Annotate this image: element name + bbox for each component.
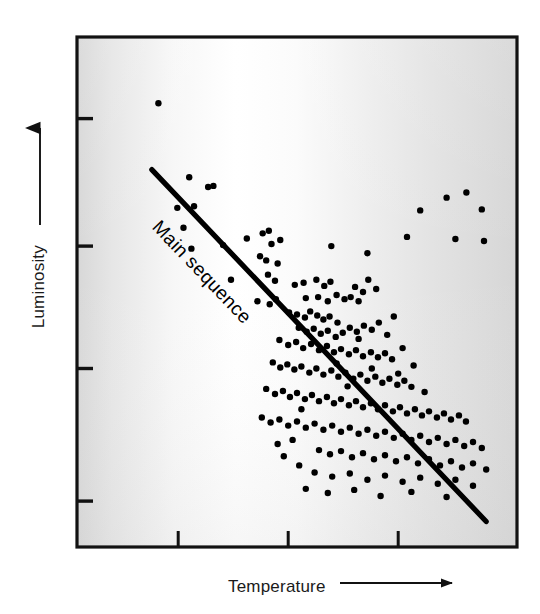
data-point <box>483 466 489 472</box>
data-point <box>340 330 346 336</box>
data-point <box>426 439 432 445</box>
data-point <box>456 412 462 418</box>
data-point <box>360 450 366 456</box>
data-point <box>395 370 401 376</box>
data-point <box>470 460 476 466</box>
data-point <box>393 458 399 464</box>
data-point <box>274 441 280 447</box>
data-point <box>341 296 347 302</box>
data-point <box>353 347 359 353</box>
y-axis-label: Luminosity <box>29 245 48 329</box>
data-point <box>338 346 344 352</box>
data-point <box>384 332 390 338</box>
data-point <box>320 371 326 377</box>
data-point <box>303 295 309 301</box>
hr-diagram-chart: Main sequence Luminosity Temperature <box>0 0 540 614</box>
data-point <box>410 362 416 368</box>
data-point <box>371 456 377 462</box>
data-point <box>369 327 375 333</box>
data-point <box>346 351 352 357</box>
data-point <box>186 174 192 180</box>
data-point <box>434 414 440 420</box>
data-point <box>404 454 410 460</box>
data-point <box>327 279 333 285</box>
data-point <box>155 100 161 106</box>
data-point <box>382 472 388 478</box>
data-point <box>404 410 410 416</box>
data-point <box>280 388 286 394</box>
data-point <box>244 235 250 241</box>
data-point <box>463 418 469 424</box>
data-point <box>347 325 353 331</box>
data-point <box>324 394 330 400</box>
data-point <box>401 378 407 384</box>
data-point <box>311 420 317 426</box>
data-point <box>331 400 337 406</box>
data-point <box>373 433 379 439</box>
data-point <box>435 435 441 441</box>
data-point <box>360 404 366 410</box>
data-point <box>328 367 334 373</box>
data-point <box>309 392 315 398</box>
data-point <box>298 363 304 369</box>
data-point <box>377 493 383 499</box>
data-point <box>287 394 293 400</box>
data-point <box>285 422 291 428</box>
data-point <box>347 424 353 430</box>
data-point <box>210 183 216 189</box>
data-point <box>298 406 304 412</box>
data-point <box>320 316 326 322</box>
data-point <box>335 373 341 379</box>
data-point <box>354 329 360 335</box>
data-point <box>349 454 355 460</box>
data-point <box>300 345 306 351</box>
data-point <box>338 396 344 402</box>
data-point <box>448 458 454 464</box>
data-point <box>364 476 370 482</box>
data-point <box>263 257 269 263</box>
data-point <box>397 404 403 410</box>
data-point <box>463 189 469 195</box>
data-point <box>364 378 370 384</box>
data-point <box>470 483 476 489</box>
data-point <box>461 443 467 449</box>
data-point <box>314 312 320 318</box>
data-point <box>274 260 280 266</box>
data-point <box>368 349 374 355</box>
data-point <box>334 319 340 325</box>
data-point <box>259 414 265 420</box>
data-point <box>306 369 312 375</box>
data-point <box>408 489 414 495</box>
data-point <box>329 473 335 479</box>
y-axis-label-group: Luminosity <box>29 128 48 328</box>
data-point <box>315 294 321 300</box>
data-point <box>360 289 366 295</box>
data-point <box>277 237 283 243</box>
data-point <box>281 453 287 459</box>
data-point <box>448 416 454 422</box>
data-point <box>361 322 367 328</box>
data-point <box>338 448 344 454</box>
data-point <box>265 271 271 277</box>
data-point <box>174 205 180 211</box>
data-point <box>364 250 370 256</box>
data-point <box>441 410 447 416</box>
data-point <box>294 390 300 396</box>
data-point <box>417 207 423 213</box>
data-point <box>412 406 418 412</box>
data-point <box>365 277 371 283</box>
data-point <box>390 408 396 414</box>
data-point <box>311 469 317 475</box>
data-point <box>452 236 458 242</box>
data-point <box>443 441 449 447</box>
data-point <box>321 283 327 289</box>
data-point <box>327 451 333 457</box>
data-point <box>408 384 414 390</box>
data-point <box>285 342 291 348</box>
data-point <box>302 314 308 320</box>
data-point <box>307 308 313 314</box>
data-point <box>459 464 465 470</box>
data-point <box>325 328 331 334</box>
data-point <box>276 416 282 422</box>
data-point <box>382 402 388 408</box>
